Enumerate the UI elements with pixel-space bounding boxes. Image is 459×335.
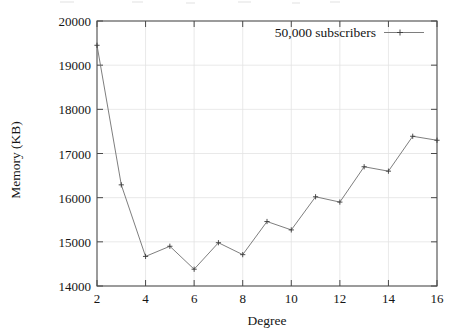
x-tick-label: 14 (382, 291, 396, 306)
y-axis-title: Memory (KB) (8, 121, 23, 199)
x-tick-label: 4 (142, 291, 149, 306)
data-point-marker (337, 199, 342, 204)
x-tick-label: 8 (239, 291, 246, 306)
y-gridlines (97, 65, 437, 242)
x-tick-label: 6 (191, 291, 198, 306)
data-point-marker (410, 134, 415, 139)
x-axis-title: Degree (248, 313, 287, 328)
y-tick-label: 17000 (59, 147, 92, 162)
x-tick-label: 16 (431, 291, 445, 306)
chart-legend: 50,000 subscribers (275, 25, 424, 40)
y-tick-label: 15000 (59, 235, 92, 250)
legend-label-0: 50,000 subscribers (275, 25, 376, 40)
chart-figure: 20000 19000 18000 17000 16000 15000 1400… (0, 0, 459, 335)
y-tick-label: 19000 (59, 58, 92, 73)
data-point-marker (434, 138, 439, 143)
x-tick-label: 12 (333, 291, 346, 306)
x-tick-labels: 2 4 6 8 10 12 14 16 (94, 291, 444, 306)
y-tick-labels: 20000 19000 18000 17000 16000 15000 1400… (59, 14, 92, 294)
data-point-marker (143, 254, 148, 259)
series-50000-subscribers (94, 43, 439, 272)
data-point-marker (362, 164, 367, 169)
scan-noise (60, 1, 340, 4)
data-point-marker (119, 182, 124, 187)
legend-marker-plus (397, 30, 403, 36)
x-tick-label: 2 (94, 291, 101, 306)
y-tick-label: 18000 (59, 102, 92, 117)
y-tick-label: 20000 (59, 14, 92, 29)
chart-svg: 20000 19000 18000 17000 16000 15000 1400… (0, 0, 459, 335)
y-tick-label: 14000 (59, 279, 92, 294)
data-point-marker (386, 169, 391, 174)
series-line (97, 45, 437, 269)
data-point-marker (94, 43, 99, 48)
x-tick-label: 10 (285, 291, 298, 306)
y-tick-label: 16000 (59, 191, 92, 206)
